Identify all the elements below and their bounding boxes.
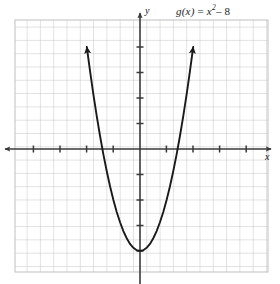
- function-label-constant: – 8: [216, 5, 230, 17]
- function-label-name: g(x): [176, 5, 195, 17]
- graph-figure: g(x) = x2– 8 y x: [0, 0, 280, 284]
- y-axis-label: y: [145, 5, 149, 16]
- function-label: g(x) = x2– 8: [176, 3, 230, 17]
- x-axis-label: x: [265, 151, 269, 162]
- coordinate-plane-svg: [0, 0, 280, 284]
- grid-group: [15, 20, 268, 272]
- function-label-equals: =: [195, 5, 207, 17]
